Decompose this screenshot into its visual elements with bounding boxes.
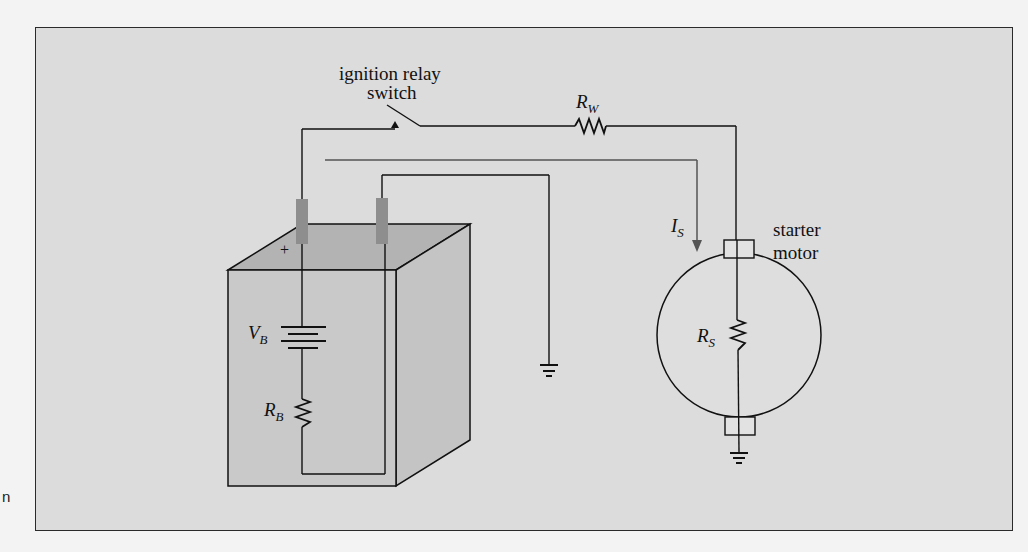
is-label: IS <box>671 216 684 237</box>
is-sub: S <box>677 225 684 240</box>
rw-main: R <box>576 91 588 112</box>
relay-switch-blade <box>387 105 420 126</box>
ground-symbol-2 <box>730 453 748 463</box>
motor-label-line2: motor <box>773 243 818 262</box>
motor-top-terminal <box>724 240 754 258</box>
rw-sub: W <box>588 101 599 116</box>
battery-box <box>228 224 470 486</box>
relay-switch-contact <box>391 121 399 128</box>
rb-main: R <box>264 399 276 420</box>
rw-label: RW <box>576 92 598 113</box>
negative-terminal <box>376 198 388 244</box>
rw-resistor <box>575 119 606 133</box>
rb-sub: B <box>276 409 284 424</box>
relay-label-line2: switch <box>367 83 417 102</box>
vb-label: VB <box>248 323 268 344</box>
motor-bottom-terminal <box>725 417 755 435</box>
vb-sub: B <box>260 332 268 347</box>
rs-main: R <box>697 325 709 346</box>
ground-symbol-1 <box>540 365 558 376</box>
relay-label-line1: ignition relay <box>339 64 441 83</box>
positive-sign: + <box>280 240 289 259</box>
rs-label: RS <box>697 326 715 347</box>
vb-main: V <box>248 322 260 343</box>
current-arrowhead <box>692 240 702 252</box>
circuit-diagram <box>0 0 1028 552</box>
rs-sub: S <box>709 335 716 350</box>
positive-terminal <box>296 199 308 244</box>
motor-label-line1: starter <box>773 220 820 239</box>
rb-label: RB <box>264 400 284 421</box>
